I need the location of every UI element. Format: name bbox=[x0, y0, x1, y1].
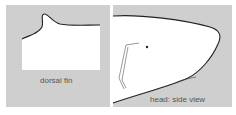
whale-diagram: dorsal fin head: side view bbox=[0, 0, 236, 115]
head-side-view-label: head: side view bbox=[150, 95, 205, 104]
head-shape bbox=[113, 16, 220, 103]
eye bbox=[146, 46, 148, 48]
dorsal-fin-shape bbox=[22, 14, 100, 70]
dorsal-fin-label: dorsal fin bbox=[40, 76, 72, 85]
